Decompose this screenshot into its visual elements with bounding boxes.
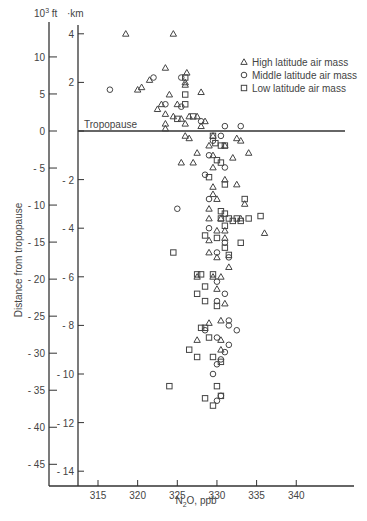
triangle-point — [194, 337, 200, 343]
y-axis-label: Distance from tropopause — [13, 202, 24, 317]
y-tick-label-kft: 5 — [39, 89, 45, 100]
ticks: 31532032533033534042- 2- 4- 6- 8- 10- 12… — [28, 29, 305, 501]
y-tick-label-km: - 8 — [62, 320, 74, 331]
x-tick-label: 335 — [248, 490, 265, 501]
triangle-point — [206, 320, 212, 326]
triangle-point — [226, 264, 232, 270]
square-point — [202, 233, 207, 238]
y-tick-label-km: - 10 — [57, 369, 75, 380]
circle-point — [214, 335, 220, 341]
x-tick-label: 340 — [288, 490, 305, 501]
x-tick-label: 320 — [129, 490, 146, 501]
square-point — [194, 291, 199, 296]
x-tick-label: 315 — [90, 490, 107, 501]
circle-point — [206, 225, 212, 231]
triangle-point — [174, 101, 180, 107]
triangle-point — [190, 159, 196, 165]
tropopause-annotation: Tropopause — [84, 119, 137, 130]
triangle-point — [210, 191, 216, 197]
triangle-point — [234, 181, 240, 187]
y-tick-label-km: - 12 — [57, 418, 75, 429]
square-point — [258, 213, 263, 218]
y-tick-label-kft: - 40 — [28, 422, 46, 433]
y-tick-label-kft: 0 — [39, 126, 45, 137]
scatter-chart: 31532032533033534042- 2- 4- 6- 8- 10- 12… — [0, 0, 367, 521]
y-tick-label-kft: - 45 — [28, 459, 46, 470]
square-point — [171, 250, 176, 255]
square-point — [186, 347, 191, 352]
square-point — [183, 92, 188, 97]
square-point — [202, 284, 207, 289]
triangle-point — [210, 164, 216, 170]
square-point — [167, 383, 172, 388]
square-point — [210, 354, 215, 359]
circle-point — [222, 291, 228, 297]
triangle-point — [218, 347, 224, 353]
triangle-point — [166, 91, 172, 97]
y-tick-label-km: 2 — [68, 77, 74, 88]
triangle-point — [261, 230, 267, 236]
triangle-point — [123, 31, 129, 37]
circle-point — [218, 133, 224, 139]
legend-square-icon — [241, 85, 246, 90]
triangle-point — [222, 300, 228, 306]
legend-triangle-icon — [241, 59, 247, 65]
triangle-point — [230, 155, 236, 161]
circle-point — [151, 75, 157, 81]
triangle-point — [222, 176, 228, 182]
legend-circle-icon — [241, 72, 247, 78]
triangle-point — [206, 206, 212, 212]
triangle-point — [162, 111, 168, 117]
circle-point — [234, 327, 240, 333]
triangle-point — [218, 317, 224, 323]
legend-label: High latitude air mass — [252, 57, 348, 68]
triangle-point — [178, 159, 184, 165]
square-point — [206, 335, 211, 340]
y-tick-label-km: 4 — [68, 29, 74, 40]
y-tick-label-kft: - 20 — [28, 274, 46, 285]
circle-point — [226, 342, 232, 348]
circle-point — [107, 87, 113, 93]
y-tick-label-km: - 14 — [57, 466, 75, 477]
triangle-point — [184, 69, 190, 75]
square-point — [246, 216, 251, 221]
circle-point — [218, 393, 224, 399]
y-tick-label-km: - 4 — [62, 223, 74, 234]
triangle-point — [194, 150, 200, 156]
circle-point — [238, 123, 244, 129]
triangle-point — [214, 227, 220, 233]
legend-label: Middle latitude air mass — [252, 70, 357, 81]
triangle-point — [210, 184, 216, 190]
x-axis-label: N2O, ppb — [175, 495, 217, 508]
square-point — [222, 182, 227, 187]
y-tick-label-kft: - 35 — [28, 385, 46, 396]
square-point — [202, 298, 207, 303]
legend: High latitude air massMiddle latitude ai… — [241, 57, 357, 94]
y-units-inner: ·km — [67, 8, 84, 19]
square-point — [210, 403, 215, 408]
triangle-point — [138, 84, 144, 90]
circle-point — [222, 123, 228, 129]
y-units-outer: 103 ft — [34, 7, 58, 19]
circle-point — [210, 371, 216, 377]
y-tick-label-kft: - 15 — [28, 237, 46, 248]
legend-label: Low latitude air mass — [252, 83, 346, 94]
square-point — [214, 235, 219, 240]
triangle-point — [206, 249, 212, 255]
square-point — [194, 354, 199, 359]
square-point — [214, 383, 219, 388]
y-tick-label-kft: - 5 — [33, 163, 45, 174]
data-points — [107, 31, 268, 409]
square-point — [238, 240, 243, 245]
circle-point — [178, 75, 184, 81]
y-tick-label-kft: - 10 — [28, 200, 46, 211]
triangle-point — [214, 286, 220, 292]
triangle-point — [170, 31, 176, 37]
circle-point — [175, 206, 181, 212]
square-point — [202, 396, 207, 401]
y-tick-label-kft: - 30 — [28, 348, 46, 359]
triangle-point — [162, 65, 168, 71]
triangle-point — [206, 215, 212, 221]
y-tick-label-km: - 2 — [62, 175, 74, 186]
y-tick-label-km: - 6 — [62, 272, 74, 283]
